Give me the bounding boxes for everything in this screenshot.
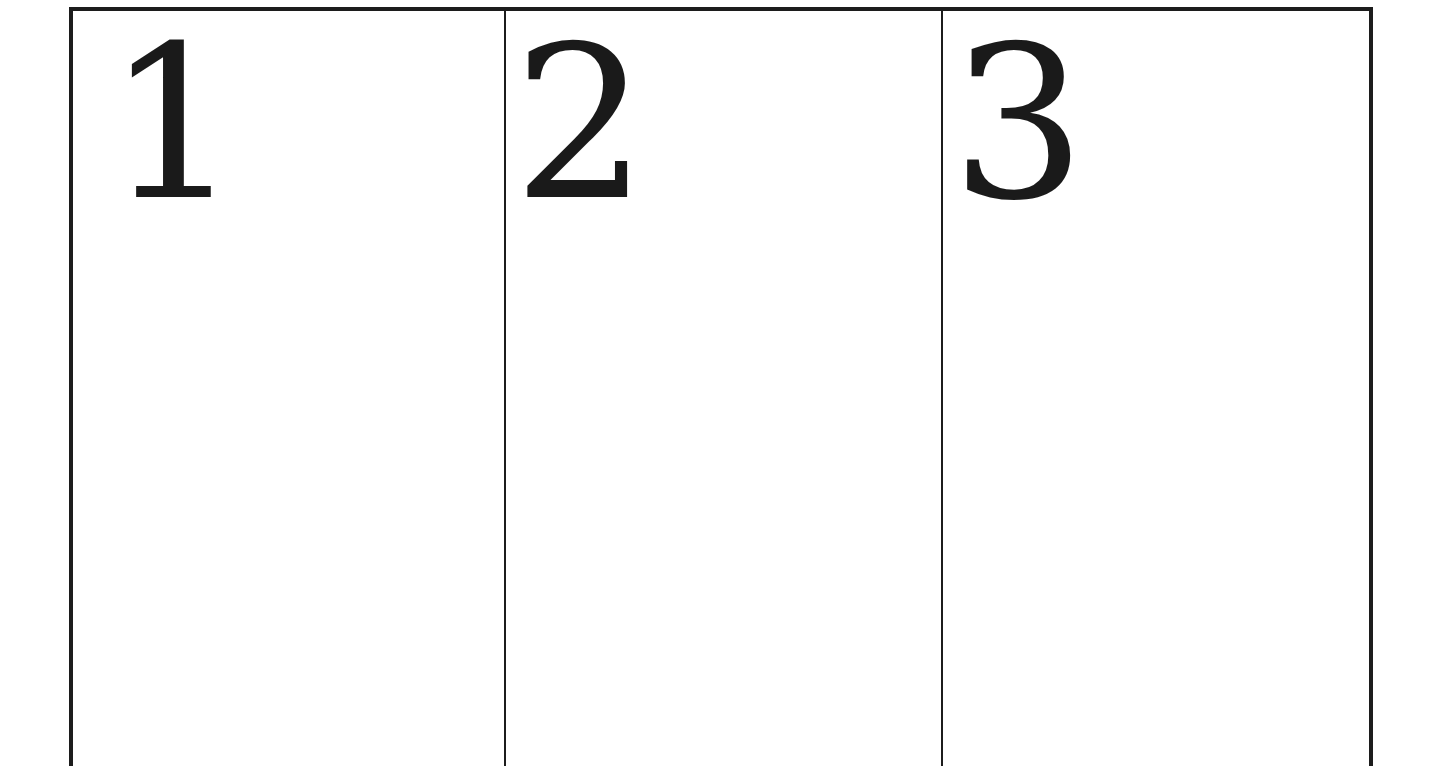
three-panel-diagram: 1 2 3 [0,0,1436,766]
panel-number-3: 3 [951,18,1086,230]
panel-divider-2-3 [941,9,943,766]
panel-number-1: 1 [106,18,241,230]
panel-number-2: 2 [513,18,648,230]
outer-frame [69,7,1373,766]
panel-divider-1-2 [504,9,506,766]
